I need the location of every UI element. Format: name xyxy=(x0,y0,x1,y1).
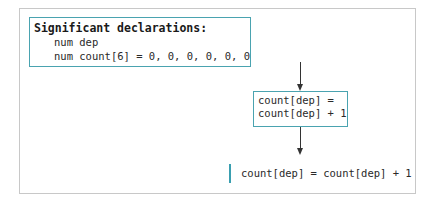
process-line: count[dep] + 1 xyxy=(258,107,343,120)
code-margin-bar xyxy=(229,164,231,183)
declaration-line: num count[6] = 0, 0, 0, 0, 0, 0 xyxy=(34,49,246,63)
flow-arrow-in xyxy=(300,62,301,84)
process-box: count[dep] = count[dep] + 1 xyxy=(253,91,348,127)
process-line: count[dep] = xyxy=(258,94,343,107)
arrowhead-icon xyxy=(297,84,303,91)
declarations-box: Significant declarations: num dep num co… xyxy=(29,17,251,67)
declarations-title: Significant declarations: xyxy=(34,21,246,35)
pseudocode-line: count[dep] = count[dep] + 1 xyxy=(241,166,412,180)
arrowhead-icon xyxy=(297,148,303,155)
flow-arrow-out xyxy=(300,127,301,149)
declaration-line: num dep xyxy=(34,35,246,49)
